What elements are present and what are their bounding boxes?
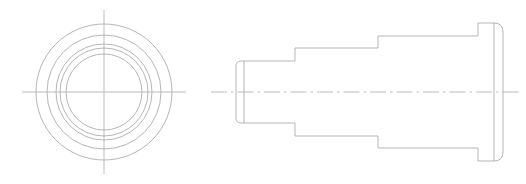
technical-drawing-canvas [0,0,526,184]
front-view [22,10,186,174]
front-view-centerlines [22,10,186,174]
drawing-svg-root [0,0,526,184]
side-view [211,23,521,161]
